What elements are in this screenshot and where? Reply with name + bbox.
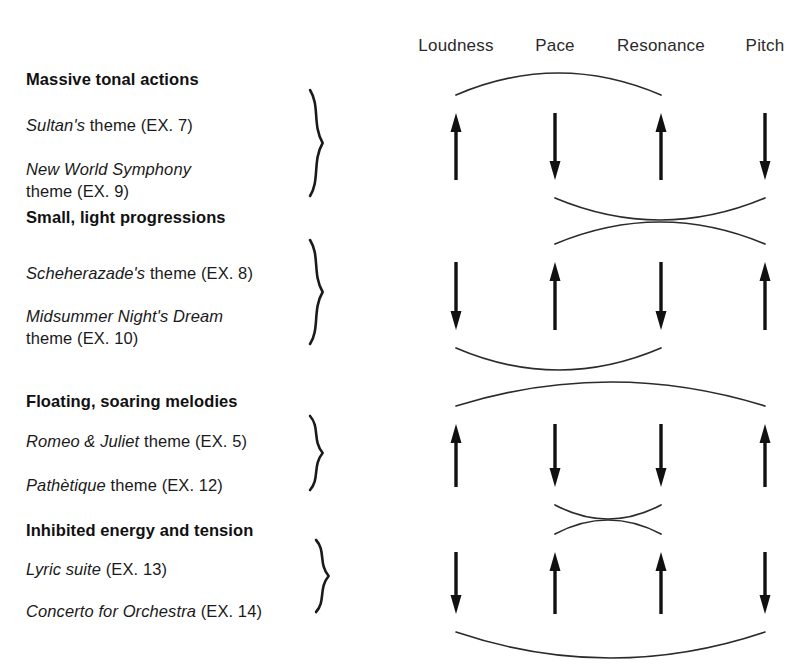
- connector-arc-top: [456, 73, 661, 95]
- theme-reference: (EX. 13): [101, 560, 167, 578]
- group-brace: [310, 90, 323, 196]
- arrow-head-up: [451, 424, 462, 443]
- theme-label: Midsummer Night's Dream: [26, 307, 223, 326]
- theme-reference: theme (EX. 7): [85, 116, 193, 134]
- theme-title-italic: Romeo & Juliet: [26, 432, 139, 450]
- arrow-head-down: [550, 468, 561, 487]
- connector-arc-bottom: [555, 198, 765, 220]
- column-header-pitch: Pitch: [746, 36, 785, 56]
- arrow-head-up: [760, 262, 771, 281]
- connector-arc-top: [555, 222, 765, 244]
- theme-reference-line2: theme (EX. 10): [26, 329, 138, 348]
- group-title-small-light-progressions: Small, light progressions: [26, 208, 226, 227]
- theme-reference: theme (EX. 8): [145, 264, 253, 282]
- arrow-head-up: [656, 113, 667, 132]
- theme-label: Sultan's theme (EX. 7): [26, 116, 193, 135]
- group-title-inhibited-energy-and-tension: Inhibited energy and tension: [26, 521, 253, 540]
- arrow-head-down: [760, 595, 771, 614]
- theme-title-italic: Pathètique: [26, 476, 106, 494]
- arrow-head-down: [656, 468, 667, 487]
- theme-title-italic: Scheherazade's: [26, 264, 145, 282]
- arrow-head-up: [656, 552, 667, 571]
- connector-arc-top: [456, 382, 765, 406]
- theme-title-italic: Concerto for Orchestra: [26, 602, 196, 620]
- theme-reference-line2: theme (EX. 9): [26, 182, 129, 201]
- arrow-head-up: [451, 113, 462, 132]
- connector-arc-bottom: [456, 348, 661, 370]
- theme-reference: (EX. 14): [196, 602, 262, 620]
- column-header-loudness: Loudness: [418, 36, 493, 56]
- theme-label: Concerto for Orchestra (EX. 14): [26, 602, 262, 621]
- arrow-head-down: [451, 595, 462, 614]
- theme-label: Romeo & Juliet theme (EX. 5): [26, 432, 247, 451]
- theme-label: Pathètique theme (EX. 12): [26, 476, 223, 495]
- arrow-head-up: [550, 262, 561, 281]
- connector-arc-bottom: [555, 505, 661, 519]
- theme-label: Scheherazade's theme (EX. 8): [26, 264, 253, 283]
- expressive-parameters-figure: LoudnessPaceResonancePitchMassive tonal …: [0, 0, 808, 670]
- theme-reference: theme (EX. 12): [106, 476, 223, 494]
- theme-title-italic: Sultan's: [26, 116, 85, 134]
- arrow-head-down: [451, 311, 462, 330]
- theme-title-italic: New World Symphony: [26, 160, 191, 178]
- theme-label: New World Symphony: [26, 160, 191, 179]
- arrow-head-down: [550, 161, 561, 180]
- group-brace: [310, 240, 323, 344]
- column-header-pace: Pace: [535, 36, 575, 56]
- arrow-head-down: [656, 311, 667, 330]
- arrow-head-down: [760, 161, 771, 180]
- group-brace: [310, 416, 323, 490]
- group-title-massive-tonal-actions: Massive tonal actions: [26, 70, 199, 89]
- connector-arc-bottom: [456, 632, 765, 658]
- theme-title-italic: Midsummer Night's Dream: [26, 307, 223, 325]
- arrow-head-up: [760, 424, 771, 443]
- theme-label: Lyric suite (EX. 13): [26, 560, 167, 579]
- connector-arc-top: [555, 520, 661, 534]
- theme-title-italic: Lyric suite: [26, 560, 101, 578]
- column-header-resonance: Resonance: [617, 36, 705, 56]
- arrow-head-up: [550, 552, 561, 571]
- group-title-floating-soaring-melodies: Floating, soaring melodies: [26, 392, 238, 411]
- group-brace: [316, 540, 329, 612]
- theme-reference: theme (EX. 5): [139, 432, 247, 450]
